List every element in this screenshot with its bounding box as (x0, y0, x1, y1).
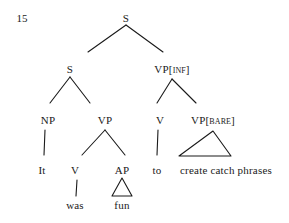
terminal-fun: fun (114, 200, 129, 211)
edge-v-to-was (76, 180, 77, 196)
edge-v-to-to (157, 130, 158, 155)
node-vp-inf-feature: INF (173, 66, 186, 75)
node-vp-inf-bracket-close: ] (186, 63, 190, 75)
node-vp-inf: VP[INF] (154, 64, 189, 75)
terminal-was: was (66, 200, 84, 211)
node-vp-bare: VP[BARE] (191, 115, 235, 126)
node-vp-bare-bracket-close: ] (231, 114, 235, 126)
ap-triangle (112, 178, 132, 196)
vp-bare-triangle (179, 131, 231, 156)
terminal-it: It (38, 165, 45, 176)
node-vp-bare-category: VP (191, 114, 205, 126)
tree-branch-lines (0, 0, 289, 223)
node-vp-inf-category: VP (154, 63, 168, 75)
edge-embedded-s-to-vp (70, 77, 90, 103)
node-ap: AP (115, 165, 129, 176)
node-v-infinitival: V (156, 115, 164, 126)
edge-embedded-s-to-np (50, 77, 70, 103)
terminal-to: to (153, 165, 162, 176)
edge-root-s-to-vp-inf (126, 25, 163, 52)
syntax-tree-figure: 15 S S VP[INF] NP VP V VP[BARE] It V AP … (0, 0, 289, 223)
edge-vp-to-v (82, 130, 105, 155)
node-np: NP (41, 115, 55, 126)
node-v-copula: V (71, 165, 79, 176)
node-embedded-s: S (67, 64, 73, 75)
edge-np-to-it (44, 130, 45, 155)
terminal-create-catch-phrases: create catch phrases (180, 165, 272, 176)
node-vp-bare-feature: BARE (209, 117, 231, 126)
edge-vp-inf-to-v (157, 79, 172, 103)
edge-vp-inf-to-vp-bare (172, 79, 196, 103)
edge-vp-to-ap (105, 130, 125, 155)
node-vp: VP (98, 115, 112, 126)
edge-root-s-to-embedded-s (88, 25, 126, 52)
node-root-s: S (123, 13, 129, 24)
